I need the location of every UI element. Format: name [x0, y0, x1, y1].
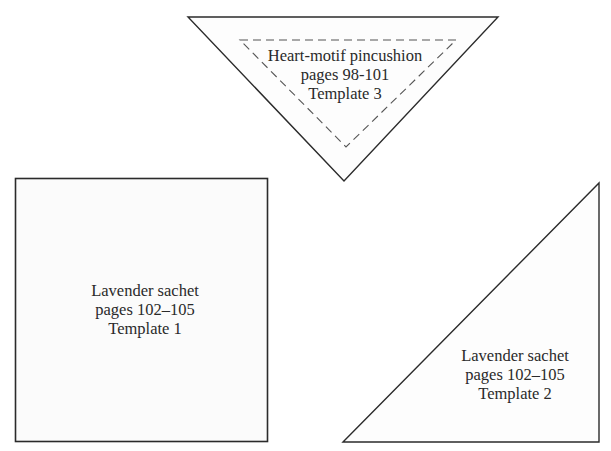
template-3-title: Heart-motif pincushion	[230, 46, 460, 65]
template-2-title: Lavender sachet	[425, 346, 605, 365]
template-1-title: Lavender sachet	[55, 281, 235, 300]
template-2-number: Template 2	[425, 384, 605, 403]
template-2-pages: pages 102–105	[425, 365, 605, 384]
template-2-label: Lavender sachet pages 102–105 Template 2	[425, 346, 605, 403]
template-1-number: Template 1	[55, 319, 235, 338]
template-2-outline	[343, 183, 599, 442]
template-3-number: Template 3	[230, 84, 460, 103]
template-1-label: Lavender sachet pages 102–105 Template 1	[55, 281, 235, 338]
template-3-pages: pages 98-101	[230, 65, 460, 84]
template-3-label: Heart-motif pincushion pages 98-101 Temp…	[230, 46, 460, 103]
template-1-pages: pages 102–105	[55, 300, 235, 319]
